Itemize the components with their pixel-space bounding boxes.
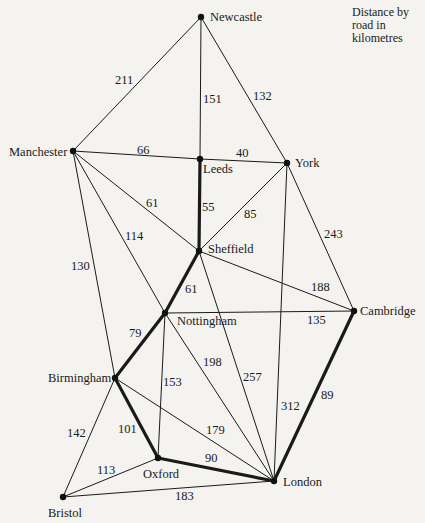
node-cambridge (351, 308, 357, 314)
edge-york-london (274, 163, 287, 481)
edge-nottingham-birmingham (115, 313, 165, 378)
city-label-cambridge: Cambridge (360, 304, 416, 318)
distance-label-nottingham-cambridge: 135 (307, 313, 326, 327)
edge-newcastle-leeds (200, 17, 201, 159)
legend-line-3: kilometres (352, 32, 424, 45)
legend: Distance by road in kilometres (352, 6, 424, 45)
distance-label-newcastle-york: 132 (253, 89, 272, 103)
distance-label-manchester-nottingham: 114 (125, 229, 144, 243)
distance-label-sheffield-london: 257 (243, 370, 262, 384)
distance-label-sheffield-nottingham: 61 (185, 282, 198, 296)
city-label-london: London (283, 475, 323, 489)
city-label-bristol: Bristol (48, 506, 83, 520)
edge-newcastle-york (201, 17, 287, 163)
distance-label-oxford-london: 90 (205, 451, 218, 465)
node-london (271, 478, 277, 484)
node-manchester (70, 148, 76, 154)
edge-newcastle-manchester (73, 17, 201, 151)
node-sheffield (196, 248, 202, 254)
city-label-nottingham: Nottingham (177, 314, 237, 328)
node-york (284, 160, 290, 166)
edge-manchester-nottingham (73, 151, 165, 313)
city-label-manchester: Manchester (9, 145, 68, 159)
distance-label-manchester-leeds: 66 (137, 143, 150, 157)
distance-label-bristol-london: 183 (175, 489, 194, 503)
city-label-sheffield: Sheffield (208, 242, 254, 256)
distance-label-newcastle-manchester: 211 (115, 73, 133, 87)
city-label-leeds: Leeds (203, 162, 233, 176)
distance-label-cambridge-london: 89 (321, 388, 334, 402)
distance-label-york-sheffield: 85 (244, 207, 257, 221)
distance-label-newcastle-leeds: 151 (203, 92, 222, 106)
distance-label-leeds-sheffield: 55 (202, 200, 215, 214)
edge-nottingham-london (165, 313, 274, 481)
node-bristol (60, 494, 66, 500)
distance-label-sheffield-cambridge: 188 (311, 280, 330, 294)
distance-labels-layer: 2111511326640556111413085243312611882571… (67, 73, 343, 503)
distance-label-manchester-birmingham: 130 (71, 259, 90, 273)
distance-label-york-london: 312 (281, 399, 300, 413)
city-label-birmingham: Birmingham (48, 371, 111, 385)
edge-birmingham-oxford (115, 378, 158, 458)
node-nottingham (162, 310, 168, 316)
distance-label-nottingham-london: 198 (203, 355, 222, 369)
road-network-graph: 2111511326640556111413085243312611882571… (0, 0, 425, 523)
city-label-oxford: Oxford (143, 467, 180, 481)
distance-label-manchester-sheffield: 61 (146, 196, 159, 210)
distance-label-birmingham-oxford: 101 (118, 422, 137, 436)
node-oxford (155, 455, 161, 461)
distance-label-birmingham-london: 179 (206, 423, 225, 437)
distance-label-oxford-bristol: 113 (97, 463, 115, 477)
city-label-newcastle: Newcastle (210, 10, 263, 24)
distance-label-york-cambridge: 243 (324, 227, 343, 241)
edge-leeds-sheffield (199, 159, 200, 251)
edge-cambridge-london (274, 311, 354, 481)
node-newcastle (198, 14, 204, 20)
distance-label-birmingham-bristol: 142 (67, 426, 86, 440)
edge-bristol-london (63, 481, 274, 497)
distance-label-leeds-york: 40 (236, 146, 249, 160)
distance-label-nottingham-birmingham: 79 (129, 326, 142, 340)
city-label-york: York (295, 156, 320, 170)
node-birmingham (112, 375, 118, 381)
distance-label-nottingham-oxford: 153 (163, 375, 182, 389)
